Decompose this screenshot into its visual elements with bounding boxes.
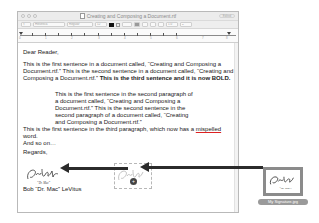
align-justify-button[interactable] bbox=[158, 22, 164, 27]
paragraph-style-popup[interactable]: ¶ bbox=[21, 22, 31, 27]
line-spacing-popup[interactable]: 1.0 bbox=[166, 22, 178, 27]
drag-copy-cursor-icon: + bbox=[130, 178, 137, 185]
paragraph-2-indented: This is the first sentence in the second… bbox=[55, 91, 195, 126]
ruler-tick bbox=[163, 33, 164, 36]
edited-badge[interactable]: Edited bbox=[219, 14, 235, 18]
ruler[interactable]: 0 1 2 3 4 5 6 7 8 bbox=[18, 29, 238, 43]
align-right-button[interactable] bbox=[150, 22, 156, 27]
text-color-well[interactable] bbox=[109, 23, 114, 27]
left-indent-marker[interactable] bbox=[19, 32, 23, 35]
ruler-tick bbox=[111, 33, 112, 36]
ruler-tick bbox=[58, 33, 59, 36]
bold-italic-underline-buttons[interactable] bbox=[122, 22, 132, 27]
align-left-button[interactable] bbox=[134, 22, 140, 27]
thumbnail-signature-icon: “Dr. Mac” bbox=[266, 170, 300, 193]
closing: Regards, bbox=[23, 149, 47, 156]
arrowhead-icon bbox=[140, 162, 149, 172]
ruler-label: 2 bbox=[71, 36, 73, 40]
svg-text:“Dr. Mac”: “Dr. Mac” bbox=[37, 180, 51, 185]
font-family-popup[interactable]: Helvetica bbox=[33, 22, 65, 27]
ruler-tick bbox=[84, 33, 85, 36]
title-bar[interactable]: Creating and Composing a Document.rtf Ed… bbox=[18, 12, 238, 21]
misspelled-word[interactable]: mispelled bbox=[196, 126, 221, 132]
svg-text:“Dr. Mac”: “Dr. Mac” bbox=[279, 186, 292, 190]
arrow-left-1-icon bbox=[68, 167, 128, 170]
file-icon-label[interactable]: My Signature.jpg bbox=[258, 199, 308, 205]
signer-name: Bob “Dr. Mac” LeVitus bbox=[23, 186, 82, 193]
paragraph-1: This is the first sentence in a document… bbox=[23, 61, 237, 82]
font-size-field[interactable]: 12 bbox=[95, 22, 107, 27]
document-body[interactable]: Dear Reader, This is the first sentence … bbox=[18, 43, 238, 212]
signature-file-icon[interactable]: “Dr. Mac” bbox=[263, 167, 303, 196]
align-center-button[interactable] bbox=[142, 22, 148, 27]
ruler-label: 5 bbox=[150, 36, 152, 40]
paragraph-3: This is the first sentence in the third … bbox=[23, 126, 237, 147]
ruler-tick bbox=[137, 33, 138, 36]
list-style-popup[interactable]: ≡ bbox=[180, 22, 192, 27]
arrow-left-2-icon bbox=[148, 166, 263, 169]
window-title: Creating and Composing a Document.rtf bbox=[18, 12, 238, 20]
font-style-popup[interactable]: Regular bbox=[67, 22, 93, 27]
right-margin-marker[interactable] bbox=[227, 32, 231, 35]
ruler-label: 1 bbox=[45, 36, 47, 40]
vertical-scrollbar[interactable] bbox=[234, 43, 238, 212]
arrowhead-icon bbox=[60, 163, 69, 173]
document-icon bbox=[80, 13, 85, 19]
ruler-label: 3 bbox=[98, 36, 100, 40]
ruler-label: 8 bbox=[226, 36, 228, 40]
ruler-tick bbox=[32, 33, 33, 36]
salutation: Dear Reader, bbox=[23, 49, 59, 56]
highlight-color-well[interactable] bbox=[116, 23, 120, 27]
ruler-label: 6 bbox=[176, 36, 178, 40]
signature-image[interactable]: “Dr. Mac” bbox=[24, 163, 60, 187]
ruler-label: 0 bbox=[19, 36, 21, 40]
textedit-window: Creating and Composing a Document.rtf Ed… bbox=[17, 11, 239, 213]
ruler-label: 4 bbox=[124, 36, 126, 40]
bold-sentence: This is the third sentence and it is now… bbox=[100, 75, 231, 81]
signature-thumbnail: “Dr. Mac” bbox=[266, 170, 300, 193]
format-toolbar: ¶ Helvetica Regular 12 1.0 ≡ bbox=[18, 21, 238, 29]
ruler-label: 7 bbox=[202, 36, 204, 40]
